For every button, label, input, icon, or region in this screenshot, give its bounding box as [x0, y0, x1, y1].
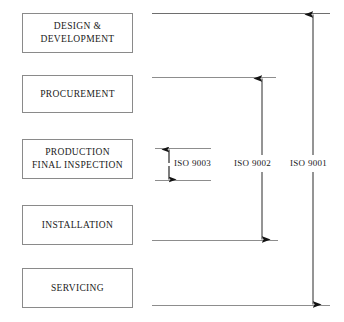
iso-9000-scope-diagram: DESIGN & DEVELOPMENT PROCUREMENT PRODUCT…: [0, 0, 344, 322]
process-box-label: INSTALLATION: [42, 219, 114, 232]
process-box-design-development: DESIGN & DEVELOPMENT: [22, 13, 133, 53]
boundary-rule-procurement-top: [152, 77, 276, 78]
boundary-rule-bottom: [152, 305, 330, 306]
boundary-rule-top: [152, 13, 330, 14]
process-box-procurement: PROCUREMENT: [22, 75, 133, 113]
process-box-label: PROCUREMENT: [40, 88, 115, 101]
process-box-label: SERVICING: [51, 282, 104, 295]
process-box-installation: INSTALLATION: [22, 205, 133, 245]
boundary-rule-iso9003-bottom: [155, 180, 211, 181]
scope-label-iso-9003: ISO 9003: [174, 158, 211, 168]
process-box-production-final-inspection: PRODUCTION FINAL INSPECTION: [22, 139, 133, 179]
scope-label-iso-9002: ISO 9002: [234, 158, 271, 168]
process-box-servicing: SERVICING: [22, 268, 133, 308]
process-box-label: PRODUCTION FINAL INSPECTION: [32, 146, 123, 172]
boundary-rule-iso9003-top: [155, 148, 211, 149]
scope-label-iso-9001: ISO 9001: [290, 158, 327, 168]
boundary-rule-installation-bottom: [152, 240, 278, 241]
process-box-label: DESIGN & DEVELOPMENT: [40, 20, 114, 46]
